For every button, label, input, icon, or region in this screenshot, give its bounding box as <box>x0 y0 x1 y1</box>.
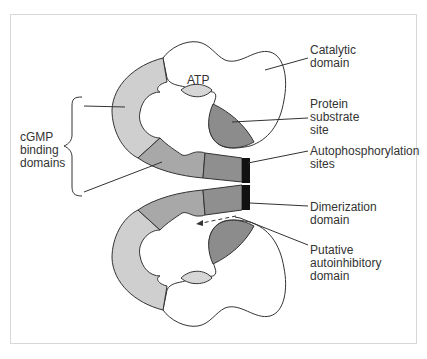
putative-autoinhibitory-domain-label: Putative autoinhibitory domain <box>310 244 381 283</box>
leader-cgmp-lower <box>84 162 162 192</box>
autophosphorylation-segment-top <box>203 153 242 182</box>
leader-autophosphorylation <box>248 151 308 163</box>
cgmp-brace <box>64 97 82 196</box>
atp-label: ATP <box>187 73 209 87</box>
dimerization-domain-label: Dimerization domain <box>310 201 377 227</box>
top-monomer <box>112 42 286 183</box>
catalytic-domain-label: Catalytic domain <box>310 44 356 70</box>
autophosphorylation-segment-bottom <box>203 185 242 215</box>
leader-dimerization <box>250 203 308 206</box>
autophosphorylation-sites-label: Autophosphorylation sites <box>310 145 419 171</box>
kinase-dimer-diagram <box>0 0 427 359</box>
dimerization-band-top <box>242 158 250 183</box>
protein-substrate-site-label: Protein substrate site <box>310 98 359 137</box>
dimerization-band-bottom <box>242 185 250 210</box>
bottom-monomer <box>112 185 286 326</box>
cgmp-binding-domains-label: cGMP binding domains <box>20 131 65 170</box>
